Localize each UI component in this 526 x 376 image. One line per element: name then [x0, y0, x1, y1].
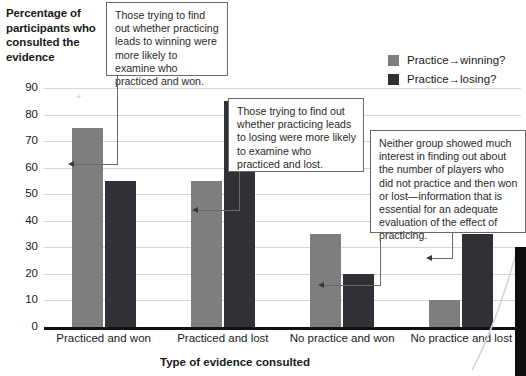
y-axis-tick-label: 90 [10, 82, 38, 94]
leader-line-1-vertical [117, 76, 118, 164]
chart-figure: Percentage of participants who consulted… [0, 0, 526, 376]
leader-arrow-1 [68, 161, 74, 167]
stray-tick-mark: + [76, 95, 81, 100]
x-axis-line [44, 327, 522, 330]
annotation-callout-practiced-and-won: Those trying to find out whether practic… [106, 2, 228, 76]
y-axis-tick-label: 0 [10, 321, 38, 333]
x-axis-category-labels: Practiced and wonPracticed and lostNo pr… [44, 331, 522, 349]
y-axis-tick-label: 80 [10, 109, 38, 121]
leader-line-3b-horizontal [430, 258, 453, 259]
legend-item: Practice→winning? [388, 52, 526, 68]
annotation-callout-no-practice: Neither group showed much interest in fi… [370, 130, 526, 233]
scan-artifact-edge-band [515, 247, 526, 376]
legend-label-practice-winning: Practice→winning? [407, 54, 505, 66]
y-axis-tick-label: 50 [10, 188, 38, 200]
leader-line-3b-vertical [452, 233, 453, 258]
bar-practice-winning [191, 181, 222, 327]
y-axis-tick-label: 30 [10, 241, 38, 253]
bar-practice-losing [462, 234, 493, 327]
bar-practice-losing [343, 274, 374, 327]
bar-practice-losing [105, 181, 136, 327]
y-axis-title: Percentage of participants who consulted… [6, 6, 110, 64]
legend: Practice→winning? Practice→losing? [388, 52, 526, 90]
y-axis-tick-label: 70 [10, 135, 38, 147]
leader-line-3a-vertical [380, 233, 381, 285]
leader-line-1-horizontal [72, 164, 118, 165]
x-axis-category-label: No practice and won [283, 331, 402, 345]
legend-swatch-practice-losing [388, 74, 399, 85]
x-axis-category-label: Practiced and won [44, 331, 163, 345]
leader-line-2-vertical [239, 172, 240, 210]
leader-line-2-horizontal [196, 210, 240, 211]
bar-practice-winning [310, 234, 341, 327]
leader-arrow-2 [192, 207, 198, 213]
x-axis-category-label: No practice and lost [402, 331, 521, 345]
x-axis-title: Type of evidence consulted [0, 356, 470, 368]
leader-arrow-3b [426, 255, 432, 261]
legend-swatch-practice-winning [388, 55, 399, 66]
y-axis-tick-label: 20 [10, 268, 38, 280]
leader-line-3a-horizontal [322, 285, 381, 286]
bar-practice-winning [72, 128, 103, 327]
y-axis-tick-label: 40 [10, 215, 38, 227]
leader-arrow-3a [318, 282, 324, 288]
x-axis-category-label: Practiced and lost [163, 331, 282, 345]
y-axis-tick-label: 10 [10, 294, 38, 306]
annotation-callout-practiced-and-lost: Those trying to find out whether practic… [228, 98, 364, 172]
y-axis-tick-label: 60 [10, 162, 38, 174]
legend-item: Practice→losing? [388, 71, 526, 87]
y-axis-tick-labels: 9080706050403020100 [6, 88, 38, 328]
bar-practice-winning [429, 300, 460, 327]
legend-label-practice-losing: Practice→losing? [407, 73, 496, 85]
